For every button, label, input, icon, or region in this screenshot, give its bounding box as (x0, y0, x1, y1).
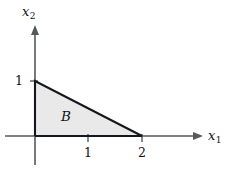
figure-container: x2 x1 1 1 2 B (0, 0, 230, 173)
x-tick-label-2: 2 (138, 147, 146, 160)
y-tick-label-1: 1 (15, 75, 23, 88)
x-axis-label-subscript: 1 (216, 135, 222, 145)
y-axis-label: x2 (22, 5, 35, 18)
x-axis-label: x1 (208, 129, 221, 142)
x-axis-label-base: x (208, 128, 215, 143)
region-label-b: B (61, 110, 71, 124)
y-axis-arrowhead (31, 25, 39, 35)
x-tick-label-1: 1 (84, 147, 92, 160)
y-axis-label-subscript: 2 (30, 11, 36, 21)
y-axis-label-base: x (22, 4, 29, 19)
plot-canvas (0, 0, 230, 173)
x-axis-arrowhead (193, 132, 203, 140)
